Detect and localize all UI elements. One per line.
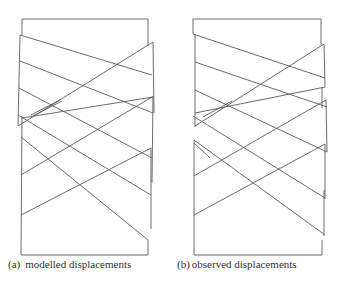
caption-modelled-displacements: (a)modelled displacements bbox=[8, 258, 131, 270]
observed-displacement-diagram bbox=[170, 0, 339, 258]
modelled-displacement-diagram bbox=[0, 0, 170, 258]
panel-observed-displacements: (b)observed displacements bbox=[170, 0, 339, 288]
panel-modelled-displacements: (a)modelled displacements bbox=[0, 0, 170, 288]
caption-text-a: modelled displacements bbox=[25, 258, 131, 270]
caption-label-a: (a) bbox=[8, 258, 20, 270]
caption-text-b: observed displacements bbox=[192, 258, 297, 270]
caption-label-b: (b) bbox=[177, 258, 190, 270]
caption-observed-displacements: (b)observed displacements bbox=[177, 258, 297, 270]
